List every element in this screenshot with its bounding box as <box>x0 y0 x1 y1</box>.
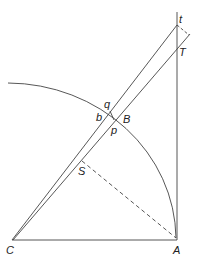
label-T: T <box>179 46 187 58</box>
label-q: q <box>104 98 111 110</box>
label-C: C <box>6 244 14 256</box>
label-B: B <box>123 113 130 125</box>
label-p: p <box>110 124 117 136</box>
label-t: t <box>179 13 183 25</box>
label-S: S <box>78 165 86 177</box>
arc <box>8 83 176 238</box>
label-A: A <box>172 244 180 256</box>
line-CT <box>13 34 190 240</box>
line-Ct <box>12 25 177 240</box>
label-b: b <box>96 111 102 123</box>
line-SA-dashed <box>82 161 176 238</box>
line-t-perp <box>177 25 189 35</box>
geometry-diagram: t T q b B p S C A <box>0 0 199 265</box>
